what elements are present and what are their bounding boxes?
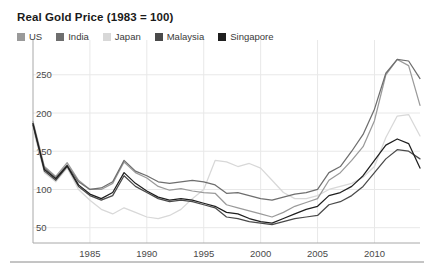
y-tick-label: 100 — [36, 184, 52, 195]
x-tick-label: 1995 — [193, 248, 214, 259]
x-tick-label: 1985 — [79, 248, 100, 259]
series-line-india — [33, 59, 420, 200]
y-tick-label: 50 — [36, 222, 47, 233]
y-tick-label: 200 — [36, 108, 52, 119]
series-line-japan — [33, 115, 420, 219]
x-tick-label: 2005 — [307, 248, 328, 259]
series-line-malaysia — [33, 125, 420, 224]
line-chart-svg: 50100150200250198519901995200020052010 — [0, 0, 428, 278]
x-tick-label: 2010 — [364, 248, 385, 259]
series-line-singapore — [33, 124, 420, 223]
y-tick-label: 250 — [36, 69, 52, 80]
x-tick-label: 2000 — [250, 248, 271, 259]
chart-plot-area: 50100150200250198519901995200020052010 — [0, 0, 428, 278]
x-tick-label: 1990 — [136, 248, 157, 259]
chart-page: Real Gold Price (1983 = 100) USIndiaJapa… — [0, 0, 428, 278]
